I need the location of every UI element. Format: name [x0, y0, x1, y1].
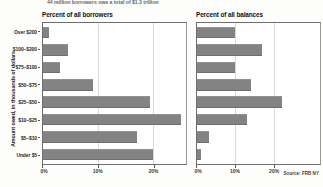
bar--50-75[interactable] — [43, 79, 93, 91]
bar-series-balances — [197, 23, 320, 164]
bar-row[interactable] — [197, 43, 320, 57]
plot-area-borrowers — [42, 22, 187, 165]
bar--75-100[interactable] — [197, 62, 235, 74]
category-label: $25–$50 — [0, 95, 40, 109]
panel-balances-title: Percent of all balances — [196, 11, 321, 19]
panel-balances: Percent of all balances 0%10%20% Source:… — [196, 11, 321, 177]
bar-under-5[interactable] — [43, 149, 153, 161]
bar--5-10[interactable] — [197, 131, 209, 143]
category-label: Under $5 — [0, 148, 40, 162]
category-tick — [38, 67, 41, 68]
bar-over-200[interactable] — [197, 27, 235, 39]
category-label: $5–$10 — [0, 131, 40, 145]
bar--25-50[interactable] — [197, 96, 282, 108]
bar-row[interactable] — [43, 78, 186, 92]
category-tick — [38, 137, 41, 138]
bar--50-75[interactable] — [197, 79, 251, 91]
chart-page: 44 million borrowers owe a total of $1.3… — [0, 0, 323, 187]
bar-row[interactable] — [197, 78, 320, 92]
category-label: $50–$75 — [0, 78, 40, 92]
bar-row[interactable] — [43, 130, 186, 144]
bar--5-10[interactable] — [43, 131, 137, 143]
bar--100-200[interactable] — [197, 44, 262, 56]
x-tick-label: 0% — [195, 168, 202, 174]
category-tick — [38, 120, 41, 121]
category-label: $100–$200 — [0, 42, 40, 56]
x-tick-label: 20% — [269, 168, 279, 174]
bar-row[interactable] — [197, 113, 320, 127]
bar-under-5[interactable] — [197, 149, 201, 161]
bar-row[interactable] — [43, 147, 186, 161]
bar-row[interactable] — [197, 130, 320, 144]
bar--10-25[interactable] — [197, 114, 247, 126]
category-tick — [38, 49, 41, 50]
x-tick-label: 0% — [41, 168, 48, 174]
bar-row[interactable] — [43, 26, 186, 40]
category-label-list: Over $200$100–$200$75–$100$50–$75$25–$50… — [0, 22, 40, 165]
source-note: Source: FRB NY — [284, 171, 319, 176]
panel-borrowers-title: Percent of all borrowers — [42, 11, 187, 19]
chart-caption: 44 million borrowers owe a total of $1.3… — [47, 0, 159, 5]
x-axis-borrowers: 0%10%20% — [42, 165, 187, 177]
bar-row[interactable] — [43, 113, 186, 127]
panel-borrowers: Percent of all borrowers 0%10%20% — [42, 11, 187, 177]
bar--100-200[interactable] — [43, 44, 68, 56]
category-label: Over $200 — [0, 25, 40, 39]
category-tick — [38, 155, 41, 156]
x-tick-label: 20% — [149, 168, 159, 174]
bar-series-borrowers — [43, 23, 186, 164]
bar-row[interactable] — [197, 60, 320, 74]
bar-row[interactable] — [197, 147, 320, 161]
category-label: $75–$100 — [0, 60, 40, 74]
bar--10-25[interactable] — [43, 114, 181, 126]
bar--75-100[interactable] — [43, 62, 60, 74]
bar-row[interactable] — [197, 26, 320, 40]
x-tick-label: 10% — [230, 168, 240, 174]
bar-row[interactable] — [43, 95, 186, 109]
category-label: $10–$25 — [0, 113, 40, 127]
bar-row[interactable] — [43, 60, 186, 74]
category-tick — [38, 102, 41, 103]
category-tick — [38, 84, 41, 85]
plot-area-balances — [196, 22, 321, 165]
bar-over-200[interactable] — [43, 27, 49, 39]
category-tick — [38, 31, 41, 32]
bar--25-50[interactable] — [43, 96, 150, 108]
bar-row[interactable] — [43, 43, 186, 57]
x-tick-label: 10% — [93, 168, 103, 174]
bar-row[interactable] — [197, 95, 320, 109]
